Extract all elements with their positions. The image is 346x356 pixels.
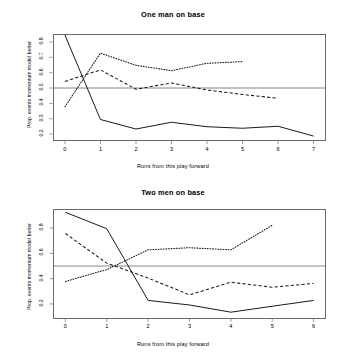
series-line-solid (65, 212, 313, 312)
x-tick-label: 4 (199, 146, 215, 152)
x-tick-label: 1 (99, 323, 115, 329)
x-tick-label: 5 (235, 146, 251, 152)
y-tick-label: 0.8 (38, 34, 44, 48)
x-tick-label: 6 (306, 323, 322, 329)
x-tick-label: 4 (223, 323, 239, 329)
x-tick-label: 0 (57, 323, 73, 329)
x-tick-label: 3 (182, 323, 198, 329)
series-line-dashed (65, 234, 313, 295)
x-tick-label: 7 (306, 146, 322, 152)
x-tick-label: 1 (92, 146, 108, 152)
x-tick-label: 5 (264, 323, 280, 329)
y-tick-label: 0.6 (38, 65, 44, 79)
chart-panel-two-men-on-base: Two men on base Prop. events momentum mo… (0, 178, 346, 356)
y-tick-label: 0.6 (38, 245, 44, 259)
x-tick-label: 2 (140, 323, 156, 329)
series-line-solid (65, 35, 314, 136)
y-tick-label: 0.4 (38, 271, 44, 285)
series-line-dotted (65, 225, 272, 281)
y-tick-label: 0.3 (38, 111, 44, 125)
y-tick-label: 0.7 (38, 49, 44, 63)
chart-panel-one-man-on-base: One man on base Prop. events momentum mo… (0, 0, 346, 178)
x-tick-label: 3 (163, 146, 179, 152)
y-tick-label: 0.2 (38, 126, 44, 140)
plot-svg-two-men-on-base (0, 178, 346, 356)
y-tick-label: 0.8 (38, 220, 44, 234)
figure-container: One man on base Prop. events momentum mo… (0, 0, 346, 356)
x-tick-label: 2 (128, 146, 144, 152)
y-tick-label: 0.4 (38, 95, 44, 109)
x-tick-label: 6 (270, 146, 286, 152)
y-tick-label: 0.2 (38, 296, 44, 310)
y-tick-label: 0.5 (38, 80, 44, 94)
x-tick-label: 0 (57, 146, 73, 152)
series-line-dashed (65, 70, 278, 98)
